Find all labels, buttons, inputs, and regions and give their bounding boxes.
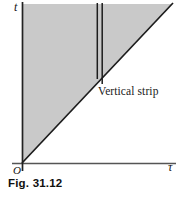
origin-label: O xyxy=(13,165,21,176)
tau-axis-label: τ xyxy=(168,161,172,173)
plot-canvas xyxy=(0,0,183,197)
vertical-strip-annotation-label: Vertical strip xyxy=(98,85,158,97)
t-axis-label: t xyxy=(14,1,17,13)
figure-container: t τ O Vertical strip Fig. 31.12 xyxy=(0,0,183,197)
figure-caption: Fig. 31.12 xyxy=(8,177,62,189)
